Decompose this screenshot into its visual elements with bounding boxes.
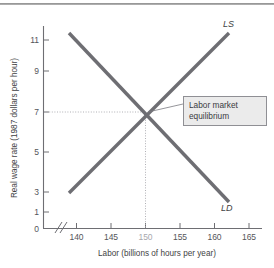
y-tick-label-5: 5 <box>34 147 39 157</box>
chart-plot-area: 11 9 7 5 3 1 0 140 145 150 155 160 165 <box>0 0 274 268</box>
figure-container: 11 9 7 5 3 1 0 140 145 150 155 160 165 <box>0 0 274 268</box>
x-tick-label-165: 165 <box>242 232 256 242</box>
x-axis-title: Labor (billions of hours per year) <box>98 249 216 258</box>
y-tick-label-1: 1 <box>34 207 39 217</box>
y-tick-label-11: 11 <box>30 35 39 45</box>
x-tick-label-145: 145 <box>104 232 118 242</box>
y-tick-label-7: 7 <box>34 107 39 117</box>
x-tick-marks <box>77 223 250 229</box>
x-tick-label-150: 150 <box>138 232 152 242</box>
labor-supply-curve-label: LS <box>223 19 234 29</box>
y-tick-marks <box>44 40 50 212</box>
x-tick-label-160: 160 <box>207 232 221 242</box>
x-tick-label-140: 140 <box>69 232 83 242</box>
equilibrium-annotation-box: Labor market equilibrium <box>183 96 267 126</box>
y-axis-title: Real wage rate (1987 dollars per hour) <box>10 58 19 198</box>
labor-demand-curve-label: LD <box>221 203 233 213</box>
y-tick-label-3: 3 <box>34 187 39 197</box>
x-axis-break-mark <box>55 222 67 233</box>
x-tick-label-155: 155 <box>173 232 187 242</box>
y-tick-label-0: 0 <box>34 224 39 234</box>
y-tick-label-9: 9 <box>34 66 39 76</box>
